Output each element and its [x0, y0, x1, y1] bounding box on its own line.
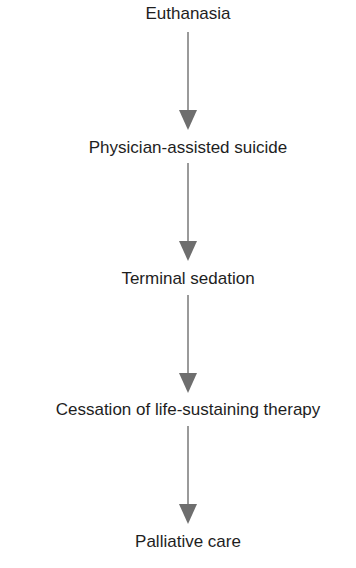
arrow-down-icon	[176, 295, 200, 395]
node-euthanasia: Euthanasia	[0, 4, 356, 24]
node-palliative-care: Palliative care	[0, 532, 356, 552]
arrow-down-icon	[176, 163, 200, 263]
node-terminal-sedation: Terminal sedation	[0, 269, 356, 289]
node-cessation-of-life-sustaining-therapy: Cessation of life-sustaining therapy	[0, 400, 356, 420]
arrow-down-icon	[176, 32, 200, 132]
node-physician-assisted-suicide: Physician-assisted suicide	[0, 138, 356, 158]
arrow-down-icon	[176, 426, 200, 526]
